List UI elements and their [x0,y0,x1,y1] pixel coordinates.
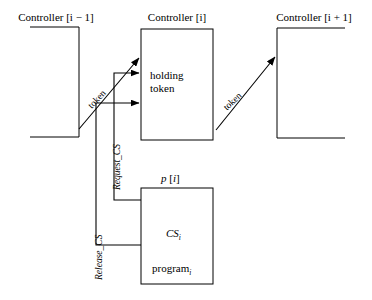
controller-right-label: Controller [i + 1] [262,11,366,24]
controller-middle-label-text: Controller [i] [148,11,206,23]
process-box-header: p [i] [161,172,180,185]
holding-token-line1: holding [150,69,184,82]
program-label-subscript: i [189,268,191,277]
arrow-token-middle-to-right [216,57,275,130]
release-cs-edge-label-text: Release_CS [94,235,104,280]
holding-token-text: holding token [150,69,184,94]
holding-token-line2: token [150,82,184,95]
cs-label-text: CS [166,227,179,239]
diagram-canvas: Controller [i − 1] Controller [i] Contro… [0,0,372,300]
arrow-token-left-to-middle [79,58,139,129]
controller-right-label-text: Controller [i + 1] [276,11,352,23]
cs-label: CSi [166,227,181,243]
request-cs-edge-label-text: Request_CS [112,144,122,190]
diagram-vector-layer [0,0,372,300]
controller-left-label: Controller [i − 1] [6,11,106,24]
controller-right-shape [277,28,345,138]
controller-middle-label: Controller [i] [127,11,227,24]
program-label: programi [152,262,191,278]
controller-left-label-text: Controller [i − 1] [18,11,94,23]
request-cs-edge-label: Request_CS [112,144,123,190]
program-label-text: program [152,262,189,274]
cs-label-subscript: i [179,233,181,242]
release-cs-edge-label: Release_CS [94,235,105,280]
controller-left-shape [30,27,79,137]
